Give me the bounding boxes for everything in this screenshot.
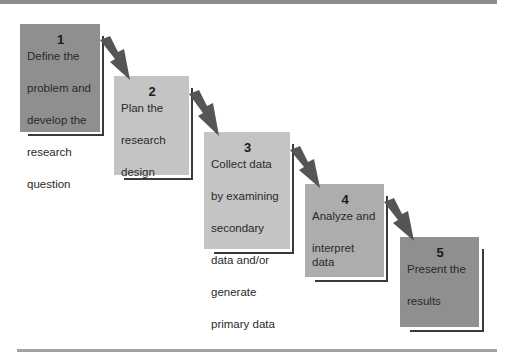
connector-arrows [0,0,509,355]
bottom-rule [17,349,497,352]
arrow-3-to-4-icon [290,146,320,188]
arrow-1-to-2-icon [100,36,130,80]
arrow-2-to-3-icon [189,90,219,136]
arrow-4-to-5-icon [384,198,414,241]
